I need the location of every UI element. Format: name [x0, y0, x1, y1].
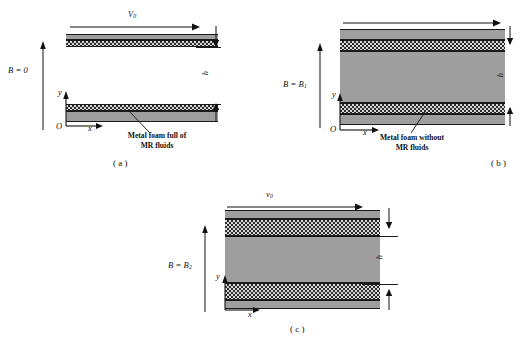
panel-c: v0 h B = B2 — [150, 180, 460, 346]
velocity-label-a: V0 — [128, 10, 136, 20]
annotation-a: Metal foam full of MR fluids — [104, 131, 210, 152]
annotation-line1-a: Metal foam full of — [104, 131, 210, 141]
h-dimension-arrow-c — [384, 206, 394, 312]
upper-gray-layer-b — [340, 29, 505, 40]
figure-canvas: V0 h B = 0 y O — [0, 0, 529, 346]
axes-a — [60, 88, 110, 130]
velocity-arrow-a — [70, 22, 200, 32]
h-dimension-arrow-b — [505, 24, 515, 128]
height-label-a: h — [200, 71, 210, 75]
annotation-b: Metal foam without MR fluids — [347, 133, 477, 154]
axis-origin-label-b: O — [330, 125, 336, 135]
panel-b: h B = B1 y O x Metal foam without MR flu… — [215, 0, 529, 175]
field-label-a: B = 0 — [8, 66, 28, 76]
field-arrow-b — [315, 42, 325, 128]
annotation-leader-b — [411, 112, 427, 134]
velocity-arrow-b — [343, 18, 501, 28]
field-arrow-a — [38, 40, 48, 130]
axis-y-label-a: y — [58, 88, 62, 98]
annotation-line1-b: Metal foam without — [347, 133, 477, 143]
axis-y-label-c: y — [216, 272, 220, 282]
field-label-c: B = B2 — [168, 261, 192, 271]
upper-checker-layer-c — [225, 219, 380, 236]
axis-x-label-c: x — [248, 310, 252, 320]
velocity-label-c: v0 — [266, 190, 273, 200]
height-label-b: h — [495, 73, 505, 77]
field-label-b: B = B1 — [283, 80, 307, 90]
axes-c — [219, 272, 269, 314]
axis-y-label-b: y — [332, 90, 336, 100]
panel-a: V0 h B = 0 y O — [0, 0, 215, 175]
caption-c: ( c ) — [290, 324, 305, 334]
caption-a: ( a ) — [113, 158, 128, 168]
axis-x-label-a: x — [88, 124, 92, 134]
annotation-line2-a: MR fluids — [104, 141, 210, 151]
axes-b — [334, 90, 386, 134]
annotation-line2-b: MR fluids — [347, 143, 477, 153]
height-label-c: h — [374, 255, 384, 259]
field-arrow-c — [200, 224, 210, 312]
upper-gray-layer-c — [225, 210, 380, 219]
caption-b: ( b ) — [491, 158, 506, 168]
upper-checker-layer-b — [340, 40, 505, 51]
axis-origin-label-a: O — [56, 122, 62, 132]
